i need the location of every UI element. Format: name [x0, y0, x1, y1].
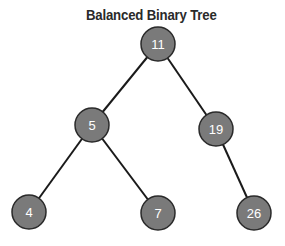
- node-label: 4: [25, 205, 32, 220]
- tree-node: 11: [141, 27, 175, 61]
- binary-tree: 115194726: [0, 0, 285, 246]
- node-label: 5: [88, 118, 95, 133]
- tree-nodes: 115194726: [12, 27, 271, 230]
- tree-node: 19: [199, 112, 233, 146]
- node-label: 26: [247, 206, 261, 221]
- tree-node: 5: [75, 108, 109, 142]
- node-label: 7: [154, 206, 161, 221]
- node-label: 11: [151, 37, 165, 52]
- tree-node: 26: [237, 196, 271, 230]
- tree-node: 7: [141, 196, 175, 230]
- node-label: 19: [209, 122, 223, 137]
- tree-node: 4: [12, 195, 46, 229]
